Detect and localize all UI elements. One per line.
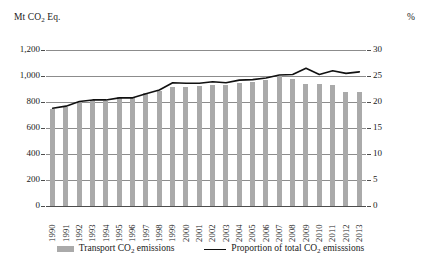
right-axis-tick-20: 20: [373, 97, 382, 106]
right-axis-tick-15: 15: [373, 123, 382, 132]
bar-1994: [103, 101, 108, 206]
bar-slot: [193, 50, 206, 206]
bar-slot: [46, 50, 59, 206]
bar-2000: [183, 87, 188, 206]
legend-line-label: Proportion of total CO2 emisssions: [231, 243, 364, 255]
bar-slot: [113, 50, 126, 206]
legend-bar-label-head: Transport CO: [79, 243, 131, 253]
x-axis-labels: 1990199119921993199419951996199719981999…: [46, 208, 366, 242]
chart-legend: Transport CO2 emissions Proportion of to…: [0, 243, 421, 255]
x-axis-label-1994: 1994: [102, 208, 111, 242]
x-label-slot: 1991: [59, 208, 72, 242]
bar-2005: [250, 82, 255, 206]
x-label-slot: 1994: [99, 208, 112, 242]
bar-slot: [313, 50, 326, 206]
x-label-slot: 2006: [259, 208, 272, 242]
bar-1992: [77, 102, 82, 206]
x-axis-label-2011: 2011: [328, 208, 337, 242]
right-tick-dash-15: [367, 128, 371, 129]
right-axis-tick-5: 5: [373, 175, 378, 184]
bar-2002: [210, 85, 215, 206]
left-axis-unit-head: Mt CO: [14, 12, 41, 22]
left-axis-tick-400: 400: [27, 149, 41, 158]
x-label-slot: 2002: [206, 208, 219, 242]
bar-slot: [246, 50, 259, 206]
bar-slot: [166, 50, 179, 206]
bar-slot: [326, 50, 339, 206]
right-tick-dash-10: [367, 154, 371, 155]
left-axis-tick-600: 600: [27, 123, 41, 132]
x-axis-label-2009: 2009: [302, 208, 311, 242]
bar-2003: [223, 85, 228, 206]
right-tick-dash-20: [367, 102, 371, 103]
x-axis-label-2001: 2001: [195, 208, 204, 242]
bar-slot: [299, 50, 312, 206]
bar-1991: [63, 107, 68, 206]
bar-2007: [277, 76, 282, 206]
x-label-slot: 1999: [166, 208, 179, 242]
x-label-slot: 2004: [233, 208, 246, 242]
x-label-slot: 1995: [113, 208, 126, 242]
x-axis-label-1992: 1992: [75, 208, 84, 242]
bar-slot: [219, 50, 232, 206]
legend-bar-label: Transport CO2 emissions: [79, 243, 175, 255]
x-label-slot: 2009: [299, 208, 312, 242]
x-axis-label-1998: 1998: [155, 208, 164, 242]
left-axis-tick-0: 0: [36, 201, 41, 210]
bar-1997: [143, 93, 148, 206]
x-label-slot: 1996: [126, 208, 139, 242]
x-axis-label-2004: 2004: [235, 208, 244, 242]
bar-slot: [73, 50, 86, 206]
bar-2008: [290, 79, 295, 206]
x-label-slot: 2012: [339, 208, 352, 242]
left-axis-unit-tail: Eq.: [45, 12, 61, 22]
bar-slot: [206, 50, 219, 206]
left-tick-dash-600: [41, 128, 45, 129]
x-axis-label-1993: 1993: [88, 208, 97, 242]
bar-1990: [50, 109, 55, 207]
x-axis-label-2010: 2010: [315, 208, 324, 242]
left-tick-dash-400: [41, 154, 45, 155]
bar-2011: [330, 85, 335, 206]
right-axis-tick-25: 25: [373, 71, 382, 80]
x-label-slot: 2013: [353, 208, 366, 242]
x-axis-label-2013: 2013: [355, 208, 364, 242]
legend-item-line: Proportion of total CO2 emisssions: [204, 243, 364, 255]
left-tick-dash-0: [41, 206, 45, 207]
right-tick-dash-25: [367, 76, 371, 77]
bar-series: [46, 50, 366, 206]
x-label-slot: 2001: [193, 208, 206, 242]
x-axis-label-2003: 2003: [222, 208, 231, 242]
bar-slot: [126, 50, 139, 206]
right-axis-tick-0: 0: [373, 201, 378, 210]
right-tick-dash-0: [367, 206, 371, 207]
x-label-slot: 1998: [153, 208, 166, 242]
x-label-slot: 2003: [219, 208, 232, 242]
x-label-slot: 2007: [273, 208, 286, 242]
x-axis-label-1996: 1996: [128, 208, 137, 242]
legend-item-bars: Transport CO2 emissions: [57, 243, 175, 255]
left-tick-dash-200: [41, 180, 45, 181]
x-label-slot: 1993: [86, 208, 99, 242]
x-axis-label-2005: 2005: [248, 208, 257, 242]
x-axis-label-1995: 1995: [115, 208, 124, 242]
bar-slot: [86, 50, 99, 206]
bar-1999: [170, 87, 175, 206]
bar-slot: [59, 50, 72, 206]
bar-1993: [90, 100, 95, 206]
bar-1995: [117, 97, 122, 206]
x-axis-label-1991: 1991: [62, 208, 71, 242]
left-axis-tick-1000: 1,000: [20, 71, 40, 80]
bar-1996: [130, 97, 135, 206]
x-axis-label-1997: 1997: [142, 208, 151, 242]
bar-slot: [233, 50, 246, 206]
x-axis-label-2000: 2000: [182, 208, 191, 242]
legend-line-swatch-icon: [204, 249, 226, 250]
x-label-slot: 1997: [139, 208, 152, 242]
legend-bar-label-tail: emissions: [134, 243, 174, 253]
co2-emissions-chart: Mt CO2 Eq. % 02004006008001,0001,2000510…: [0, 0, 421, 266]
bar-2001: [197, 86, 202, 206]
bar-2010: [317, 84, 322, 206]
bar-2013: [357, 92, 362, 206]
bar-slot: [179, 50, 192, 206]
